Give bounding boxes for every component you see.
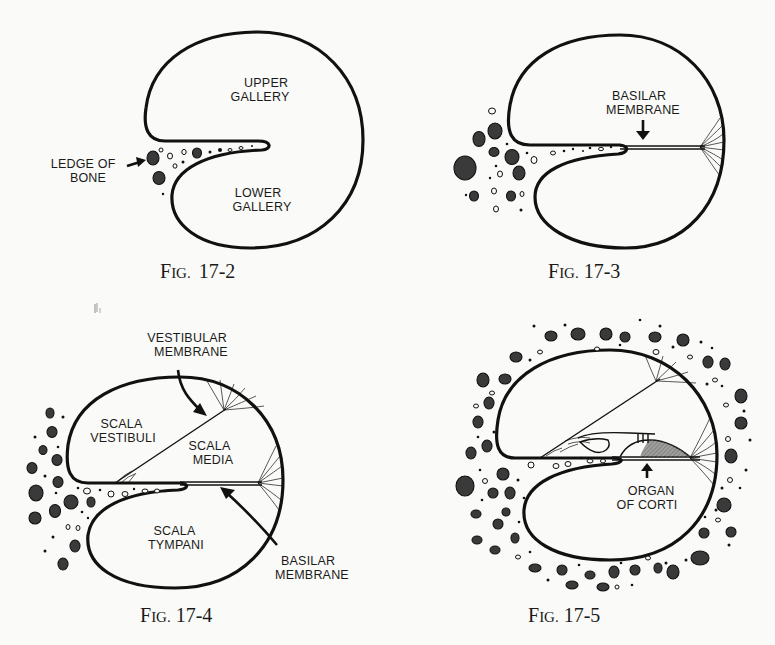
basilar-arrowhead-icon: [636, 131, 650, 140]
label-basilar-membrane: BASILAR MEMBRANE: [606, 89, 680, 117]
label-scala-tympani: SCALA TYMPANI: [148, 524, 204, 552]
caption-fig-17-2: FIG.17-2: [160, 260, 235, 282]
caption-fig-17-3: FIG.17-3: [548, 260, 620, 282]
figure-17-3: BASILAR MEMBRANE: [454, 35, 724, 248]
label-scala-media: SCALA MEDIA: [189, 439, 234, 467]
figure-17-5: ORGAN OF CORTI: [456, 319, 752, 591]
organ-of-corti-structure: [546, 433, 692, 457]
label-vestibular-membrane: VESTIBULAR MEMBRANE: [147, 331, 231, 359]
figure-17-2: UPPER GALLERY LOWER GALLERY LEDGE OF BON…: [51, 32, 363, 248]
label-upper-gallery: UPPER GALLERY: [231, 76, 292, 104]
bone-pores: [454, 108, 612, 212]
label-ledge-of-bone: LEDGE OF BONE: [51, 157, 120, 185]
caption-fig-17-4: FIG.17-4: [140, 604, 212, 626]
corti-arrowhead-icon: [641, 463, 653, 471]
figure-17-4: VESTIBULAR MEMBRANE SCALA VESTIBULI SCAL…: [27, 331, 349, 588]
label-lower-gallery: LOWER GALLERY: [233, 186, 292, 214]
limbus-fibers: [118, 471, 136, 483]
label-basilar-membrane: BASILAR MEMBRANE: [275, 554, 349, 582]
cochlea-figure-plate: UPPER GALLERY LOWER GALLERY LEDGE OF BON…: [0, 0, 775, 645]
label-scala-vestibuli: SCALA VESTIBULI: [90, 417, 156, 445]
vestibular-membrane-line: [540, 379, 660, 458]
caption-fig-17-5: FIG.17-5: [528, 604, 600, 626]
ledge-arrowhead-icon: [136, 157, 146, 167]
cochlear-canal-outline: [145, 32, 363, 248]
cochlear-canal-outline: [508, 35, 724, 248]
basilar-arrow-icon: [228, 494, 277, 545]
label-organ-of-corti: ORGAN OF CORTI: [616, 484, 678, 512]
scan-mark: [95, 303, 100, 313]
